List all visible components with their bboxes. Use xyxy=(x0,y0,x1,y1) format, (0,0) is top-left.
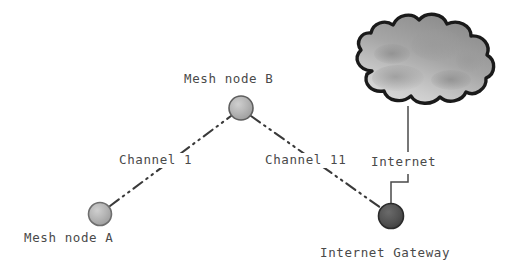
cloud-shading-puff-2 xyxy=(431,70,471,90)
cloud-shading-puff-1 xyxy=(372,65,424,91)
node-mesh-node-a[interactable] xyxy=(89,203,112,226)
mesh-node-b-circle xyxy=(229,96,253,120)
gateway-riser-line xyxy=(391,174,408,207)
internet-cloud[interactable] xyxy=(357,14,493,103)
label-mesh-node-a: Mesh node A xyxy=(22,231,115,246)
internet-gateway-circle xyxy=(379,204,404,229)
node-mesh-node-b[interactable] xyxy=(229,96,253,120)
label-channel-1: Channel 1 xyxy=(117,153,194,168)
cloud-shading-puff-3 xyxy=(411,29,463,61)
label-internet-gateway: Internet Gateway xyxy=(318,246,452,261)
cloud-shading-puff-4 xyxy=(374,44,410,64)
node-internet-gateway[interactable] xyxy=(379,204,404,229)
label-channel-11: Channel 11 xyxy=(263,153,348,168)
label-internet: Internet xyxy=(369,155,438,170)
network-diagram: Mesh node B Mesh node A Channel 1 Channe… xyxy=(0,0,508,275)
label-mesh-node-b: Mesh node B xyxy=(182,72,275,87)
cloud-shading-puff-5 xyxy=(456,48,484,72)
mesh-node-a-circle xyxy=(89,203,112,226)
